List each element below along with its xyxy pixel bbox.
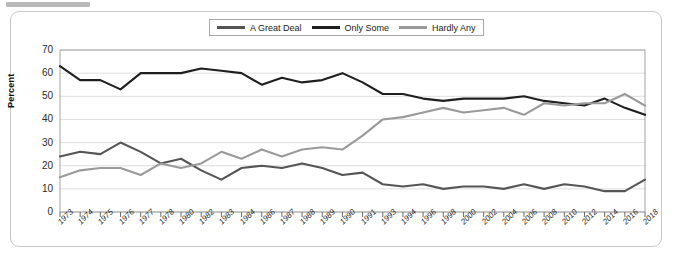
legend-label: Only Some [345,23,390,33]
y-tick-label: 40 [31,113,53,124]
series-line-a-great-deal [60,143,645,192]
legend-swatch-icon [217,26,245,29]
legend-label: Hardly Any [432,23,476,33]
chart-figure: A Great DealOnly SomeHardly Any Percent … [0,0,673,259]
y-tick-label: 20 [31,160,53,171]
legend-swatch-icon [312,26,340,29]
legend-label: A Great Deal [250,23,302,33]
legend-swatch-icon [399,26,427,29]
legend-item: A Great Deal [217,23,302,33]
chart-legend: A Great DealOnly SomeHardly Any [209,19,484,36]
y-tick-label: 10 [31,183,53,194]
legend-item: Only Some [312,23,390,33]
legend-item: Hardly Any [399,23,476,33]
series-line-hardly-any [60,94,645,177]
y-tick-label: 70 [31,44,53,55]
y-tick-label: 30 [31,137,53,148]
y-tick-label: 0 [31,206,53,217]
y-tick-label: 50 [31,90,53,101]
y-tick-label: 60 [31,67,53,78]
